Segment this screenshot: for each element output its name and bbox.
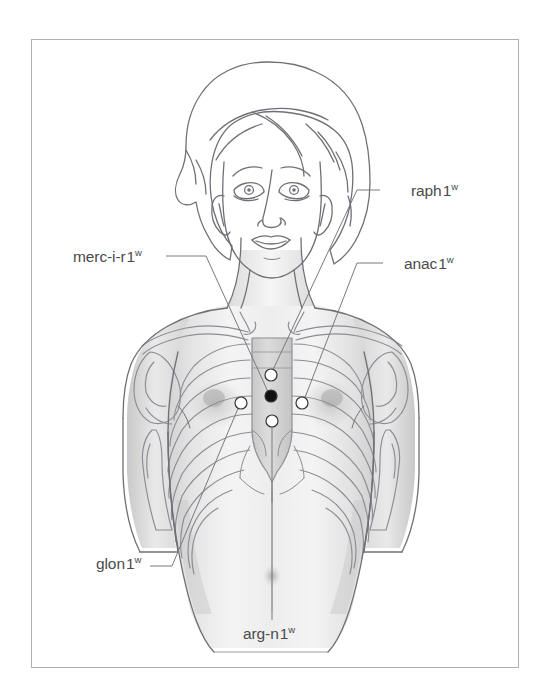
- leader-lines: [150, 190, 383, 620]
- marker-argn-point: [266, 415, 278, 427]
- marker-glon-point: [235, 397, 247, 409]
- leader-line-raph: [272, 190, 380, 372]
- label-arg-n: arg-n1w: [243, 626, 295, 642]
- label-anac-superscript: w: [447, 254, 454, 265]
- annotation-layer: [0, 0, 539, 695]
- marker-anac-point: [296, 397, 308, 409]
- label-glon-name: glon: [96, 555, 125, 572]
- label-merc-i-r: merc-i-r1w: [73, 249, 142, 265]
- marker-raph-point: [265, 369, 277, 381]
- label-merc-i-r-superscript: w: [135, 247, 142, 258]
- point-markers: [235, 369, 308, 427]
- label-anac-name: anac: [404, 255, 437, 272]
- label-glon-superscript: w: [134, 554, 141, 565]
- label-merc-i-r-index: 1: [126, 248, 136, 265]
- label-anac-index: 1: [437, 255, 447, 272]
- label-merc-i-r-name: merc-i-r: [73, 248, 126, 265]
- label-glon-index: 1: [125, 555, 135, 572]
- label-arg-n-index: 1: [279, 625, 289, 642]
- label-raph: raph1w: [411, 183, 458, 199]
- label-anac: anac1w: [404, 256, 454, 272]
- label-arg-n-superscript: w: [288, 624, 295, 635]
- label-arg-n-name: arg-n: [243, 625, 279, 642]
- leader-line-anac: [304, 263, 383, 400]
- marker-merc-point: [265, 390, 277, 402]
- leader-line-merc-i-r: [166, 256, 269, 394]
- label-raph-superscript: w: [451, 181, 458, 192]
- label-glon: glon1w: [96, 556, 141, 572]
- label-raph-name: raph: [411, 182, 442, 199]
- leader-line-glon: [150, 406, 239, 566]
- figure-canvas: raph1w anac1w merc-i-r1w glon1w arg-n1w: [0, 0, 539, 695]
- label-raph-index: 1: [442, 182, 452, 199]
